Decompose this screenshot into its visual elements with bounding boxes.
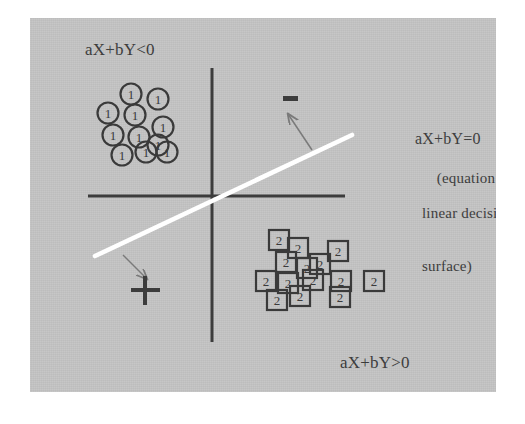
scanned-figure-plate: aX+bY<0 aX+bY>0 aX+bY=0 (equation of the… xyxy=(30,18,496,392)
figure-root: aX+bY<0 aX+bY>0 aX+bY=0 (equation of the… xyxy=(0,0,525,424)
decision-surface-equation-label: aX+bY=0 xyxy=(415,130,481,148)
decision-surface-equation-note: (equation of the linear decision surface… xyxy=(413,152,496,311)
negative-region-label: aX+bY<0 xyxy=(85,40,155,59)
positive-region-label: aX+bY>0 xyxy=(340,353,410,372)
equation-note-line-3: surface) xyxy=(413,258,496,276)
equation-note-line-1: (equation of the xyxy=(437,170,496,186)
equation-note-line-2: linear decision xyxy=(413,205,496,223)
